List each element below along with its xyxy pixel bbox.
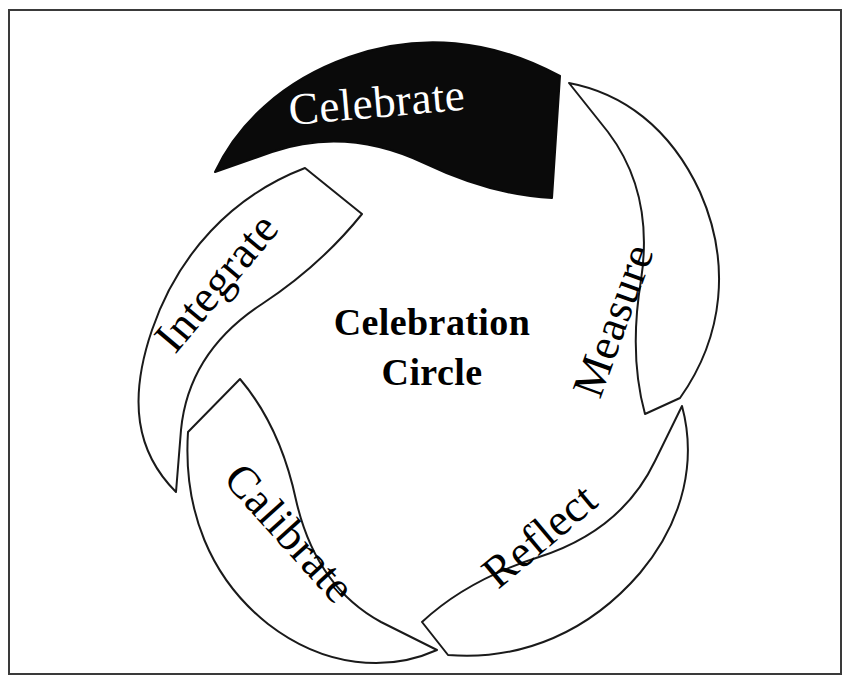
celebration-circle-diagram: Integrate Calibrate Reflect Measure Cele… <box>0 0 851 685</box>
segment-celebrate[interactable]: Celebrate <box>215 42 560 198</box>
center-title-line-1: Celebration <box>334 301 530 343</box>
diagram-canvas: Integrate Calibrate Reflect Measure Cele… <box>0 0 851 685</box>
segment-reflect[interactable]: Reflect <box>422 406 688 656</box>
center-title-line-2: Circle <box>382 351 483 393</box>
segment-measure[interactable]: Measure <box>562 83 719 414</box>
center-title: Celebration Circle <box>334 301 530 393</box>
segment-calibrate[interactable]: Calibrate <box>187 379 437 663</box>
